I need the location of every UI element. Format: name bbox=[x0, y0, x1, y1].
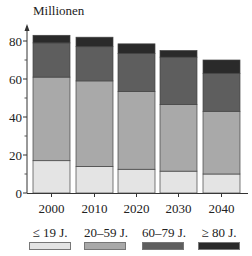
legend-label: 20–59 J. bbox=[84, 226, 126, 240]
x-tick-label: 2040 bbox=[209, 201, 235, 216]
y-tick-label: 0 bbox=[16, 186, 23, 201]
x-tick-label: 2000 bbox=[39, 201, 65, 216]
y-tick-label: 80 bbox=[9, 34, 22, 49]
bar-segment-2040-1 bbox=[203, 111, 240, 174]
bar-segment-2030-0 bbox=[160, 171, 197, 193]
bar-segment-2020-0 bbox=[118, 169, 155, 193]
bar-segment-2020-3 bbox=[118, 44, 155, 54]
bar-segment-2000-0 bbox=[33, 161, 70, 193]
bar-segment-2000-3 bbox=[33, 35, 70, 43]
legend-swatch bbox=[29, 242, 71, 250]
bar-segment-2030-1 bbox=[160, 105, 197, 171]
y-axis-arrow-icon bbox=[25, 24, 30, 31]
bar-segment-2010-2 bbox=[76, 47, 113, 81]
bar-segment-2000-1 bbox=[33, 77, 70, 161]
legend-swatch bbox=[84, 242, 126, 250]
bar-segment-2010-3 bbox=[76, 37, 113, 47]
bar-segment-2010-0 bbox=[76, 166, 113, 193]
bar-segment-2020-1 bbox=[118, 91, 155, 169]
bar-segment-2040-2 bbox=[203, 73, 240, 111]
y-tick-label: 40 bbox=[9, 110, 22, 125]
legend-swatch bbox=[198, 242, 240, 250]
legend-item-0: ≤ 19 J. bbox=[29, 226, 71, 250]
bar-segment-2030-3 bbox=[160, 51, 197, 58]
bar-segment-2040-0 bbox=[203, 174, 240, 193]
x-tick-label: 2030 bbox=[166, 201, 192, 216]
bar-segment-2040-3 bbox=[203, 60, 240, 73]
x-tick-label: 2020 bbox=[124, 201, 150, 216]
bar-segment-2000-2 bbox=[33, 43, 70, 77]
legend-label: ≥ 80 J. bbox=[198, 226, 240, 240]
stacked-bar-chart: 02040608020002010202020302040 bbox=[0, 0, 252, 256]
y-tick-label: 20 bbox=[9, 148, 22, 163]
x-tick-label: 2010 bbox=[82, 201, 108, 216]
bar-segment-2030-2 bbox=[160, 57, 197, 105]
bar-segment-2020-2 bbox=[118, 53, 155, 91]
legend-label: 60–79 J. bbox=[142, 226, 184, 240]
legend-label: ≤ 19 J. bbox=[29, 226, 71, 240]
legend-item-2: 60–79 J. bbox=[142, 226, 184, 250]
legend-item-3: ≥ 80 J. bbox=[198, 226, 240, 250]
legend-item-1: 20–59 J. bbox=[84, 226, 126, 250]
bar-segment-2010-1 bbox=[76, 81, 113, 166]
y-tick-label: 60 bbox=[9, 72, 22, 87]
legend-swatch bbox=[142, 242, 184, 250]
